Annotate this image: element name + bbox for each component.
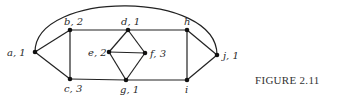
edge-e-g [109,52,126,80]
node-label-f: f, 3 [149,48,166,59]
node-d [126,28,131,33]
node-i [185,78,190,83]
node-j [215,53,220,58]
node-a [33,50,38,55]
graph-diagram: a, 1b, 2c, 3d, 1e, 2f, 3g, 1hij, 1 FIGUR… [0,0,342,105]
node-label-j: j, 1 [221,50,239,61]
node-label-d: d, 1 [121,16,140,27]
node-label-c: c, 3 [64,83,82,94]
edge-f-g [126,53,145,80]
graph-edges [35,30,217,80]
node-h [185,28,190,33]
node-label-e: e, 2 [88,47,107,58]
node-label-g: g, 1 [120,84,139,95]
edge-h-j [187,30,217,55]
edge-i-j [187,55,217,80]
edge-d-f [128,30,145,53]
node-label-h: h [184,16,190,27]
edge-a-b [35,30,70,52]
edge-c-g [70,79,126,80]
node-g [124,78,129,83]
figure-caption: FIGURE 2.11 [255,74,320,86]
node-label-i: i [185,84,188,95]
node-label-a: a, 1 [7,47,26,58]
node-c [68,77,73,82]
edge-e-f [109,52,145,53]
node-b [68,28,73,33]
edge-d-e [109,30,128,52]
node-e [107,50,112,55]
node-label-b: b, 2 [64,16,83,27]
node-f [143,51,148,56]
edge-a-c [35,52,70,79]
